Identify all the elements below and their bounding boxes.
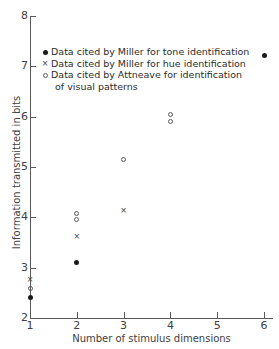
- y-tick-mark: [31, 117, 36, 118]
- x-tick-label: 3: [117, 320, 131, 331]
- legend-label-visual-line2: of visual patterns: [41, 81, 138, 93]
- legend-label-tone: Data cited by Miller for tone identifica…: [51, 46, 249, 58]
- open-circle-icon: [41, 69, 51, 81]
- data-point-filled-circle: [262, 53, 267, 58]
- scatter-plot-figure: 2345678 123456 ××× Information transmitt…: [0, 0, 279, 349]
- legend-label-hue: Data cited by Miller for hue identificat…: [51, 58, 246, 70]
- x-tick-mark: [217, 312, 218, 318]
- x-tick-label: 5: [210, 320, 224, 331]
- x-tick-mark: [77, 312, 78, 318]
- x-tick-label: 1: [23, 320, 37, 331]
- data-point-cross: ×: [120, 207, 127, 214]
- y-tick-mark: [31, 167, 36, 168]
- x-axis-title: Number of stimulus dimensions: [30, 333, 273, 344]
- y-tick-mark: [31, 66, 36, 67]
- legend-entry-visual: Data cited by Attneave for identificatio…: [41, 69, 249, 81]
- y-tick-mark: [31, 16, 36, 17]
- legend-label-visual: Data cited by Attneave for identificatio…: [51, 69, 242, 81]
- legend-entry-visual-cont: of visual patterns: [41, 81, 249, 93]
- y-axis-title: Information transmitted in bits: [11, 73, 22, 273]
- chart-legend: Data cited by Miller for tone identifica…: [41, 46, 249, 92]
- data-point-open-circle: [168, 112, 173, 117]
- legend-entry-tone: Data cited by Miller for tone identifica…: [41, 46, 249, 58]
- legend-entry-hue: × Data cited by Miller for hue identific…: [41, 58, 249, 70]
- y-tick-mark: [31, 217, 36, 218]
- x-tick-label: 6: [257, 320, 271, 331]
- x-tick-mark: [170, 312, 171, 318]
- data-point-filled-circle: [74, 260, 79, 265]
- plot-area: 2345678 123456 ××× Information transmitt…: [0, 0, 279, 349]
- data-point-open-circle: [74, 211, 79, 216]
- x-tick-label: 2: [70, 320, 84, 331]
- x-tick-mark: [264, 312, 265, 318]
- data-point-cross: ×: [73, 233, 80, 240]
- x-axis-line: [30, 318, 273, 319]
- x-tick-mark: [124, 312, 125, 318]
- y-tick-mark: [31, 268, 36, 269]
- filled-circle-icon: [41, 46, 51, 58]
- x-tick-label: 4: [163, 320, 177, 331]
- cross-icon: ×: [41, 58, 51, 70]
- data-point-open-circle: [168, 119, 173, 124]
- y-tick-label: 7: [16, 60, 28, 71]
- y-tick-label: 8: [16, 10, 28, 21]
- data-point-open-circle: [74, 217, 79, 222]
- data-point-open-circle: [121, 157, 126, 162]
